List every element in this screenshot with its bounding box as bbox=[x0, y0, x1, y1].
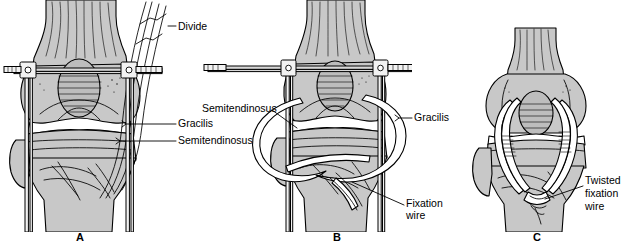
label-semitendinosus-a: Semitendinosus bbox=[178, 135, 253, 147]
panel-letter-a: A bbox=[76, 231, 84, 243]
label-twisted-line2: fixation bbox=[585, 188, 618, 200]
label-fixation-wire-line2: wire bbox=[406, 210, 425, 222]
label-twisted-line1: Twisted bbox=[585, 175, 621, 187]
label-fixation-wire-line1: Fixation bbox=[406, 198, 443, 210]
label-gracilis-b: Gracilis bbox=[414, 112, 449, 124]
label-semitendinosus-b: Semitendinosus bbox=[202, 103, 277, 115]
label-twisted-line3: wire bbox=[585, 201, 604, 213]
label-gracilis-a: Gracilis bbox=[178, 118, 213, 130]
panel-a-artwork bbox=[4, 0, 166, 232]
figure-artwork: .bone{fill:#c8c8c8;stroke:#000;stroke-wi… bbox=[0, 0, 632, 250]
panel-c-artwork bbox=[473, 28, 586, 232]
panel-letter-c: C bbox=[533, 231, 541, 243]
label-divide: Divide bbox=[178, 21, 207, 33]
surgical-technique-figure: .bone{fill:#c8c8c8;stroke:#000;stroke-wi… bbox=[0, 0, 632, 250]
panel-letter-b: B bbox=[333, 231, 341, 243]
